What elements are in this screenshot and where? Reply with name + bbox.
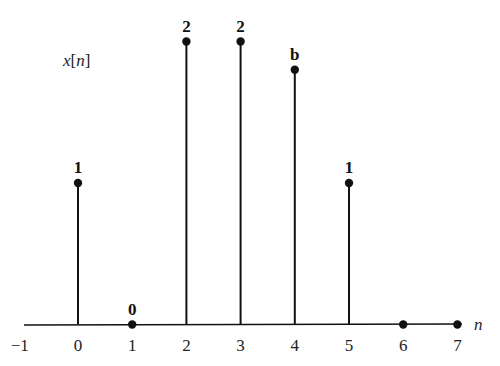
y-axis-label: x[n] xyxy=(62,51,90,70)
stem-marker xyxy=(236,37,244,45)
stem-marker xyxy=(128,320,136,328)
stem-marker xyxy=(291,66,299,74)
x-axis xyxy=(24,324,462,325)
value-label: b xyxy=(290,45,299,64)
x-tick-labels: −101234567 xyxy=(11,336,462,355)
x-tick-label: 1 xyxy=(128,336,137,355)
x-tick-label: 3 xyxy=(236,336,245,355)
value-label: 0 xyxy=(128,300,137,319)
x-tick-label: −1 xyxy=(11,336,29,355)
x-tick-label: 2 xyxy=(182,336,191,355)
stem-marker xyxy=(74,179,82,187)
value-label: 2 xyxy=(236,17,245,36)
stem-marker xyxy=(182,37,190,45)
x-tick-label: 7 xyxy=(453,336,462,355)
stem-marker xyxy=(453,320,461,328)
stem-marker xyxy=(345,179,353,187)
x-tick-label: 0 xyxy=(74,336,83,355)
x-tick-label: 4 xyxy=(291,336,300,355)
x-tick-label: 6 xyxy=(399,336,408,355)
x-tick-label: 5 xyxy=(345,336,354,355)
value-label: 1 xyxy=(345,158,354,177)
stems: 1022b1 xyxy=(74,17,462,329)
x-axis-label: n xyxy=(474,315,483,334)
stem-plot: 1022b1 −101234567 x[n] n xyxy=(0,0,500,366)
stem-marker xyxy=(399,320,407,328)
value-label: 1 xyxy=(74,158,83,177)
value-label: 2 xyxy=(182,17,191,36)
